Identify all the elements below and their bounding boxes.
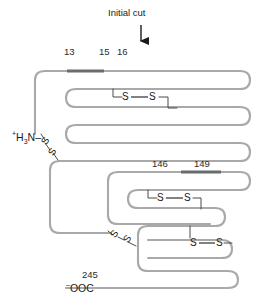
residue-label-146: 146: [152, 159, 168, 169]
residue-label-245: 245: [82, 270, 98, 280]
n-terminus-label: +H3N–: [12, 130, 41, 145]
polypeptide-backbone: [35, 71, 250, 288]
disulfide-bond-lines: [131, 97, 215, 243]
residue-label-149: 149: [194, 159, 210, 169]
cleavage-segment-group: [67, 71, 221, 172]
sulfur-bond-5-right: S: [216, 238, 223, 248]
sulfur-bond-1-right: S: [149, 92, 156, 102]
residue-label-13: 13: [64, 47, 75, 57]
c-terminus-label: –OOC: [66, 281, 94, 293]
residue-label-15: 15: [99, 47, 110, 57]
connector-bond-3-left: [148, 190, 157, 198]
residue-label-16: 16: [117, 47, 128, 57]
n-terminus-h: H: [16, 131, 24, 143]
sulfur-bond-3-right: S: [184, 193, 191, 203]
protein-chain-diagram: [0, 0, 266, 302]
c-terminus-text: OOC: [70, 282, 94, 294]
sulfur-bond-5-left: S: [190, 238, 197, 248]
sulfur-bond-3-left: S: [157, 193, 164, 203]
initial-cut-label: Initial cut: [108, 8, 146, 18]
figure-container: Initial cut 13 15 16 146 149 245 +H3N– –…: [0, 0, 266, 302]
sulfur-bond-1-left: S: [122, 92, 129, 102]
connector-bond-1-left: [113, 89, 122, 97]
